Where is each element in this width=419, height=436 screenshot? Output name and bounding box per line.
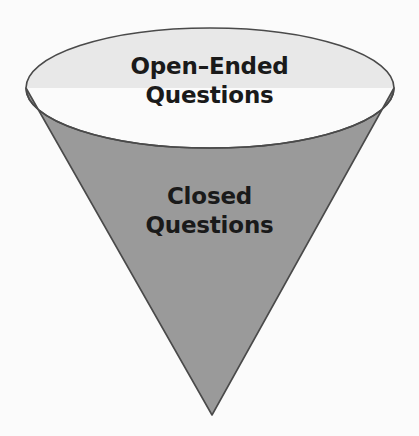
open-ended-label-line2: Questions bbox=[0, 81, 419, 110]
closed-label: Closed Questions bbox=[0, 182, 419, 240]
open-ended-label-line1: Open–Ended bbox=[0, 52, 419, 81]
open-ended-label: Open–Ended Questions bbox=[0, 52, 419, 110]
closed-label-line2: Questions bbox=[0, 211, 419, 240]
cone-body-shape bbox=[26, 88, 394, 415]
closed-label-line1: Closed bbox=[0, 182, 419, 211]
funnel-diagram: Open–Ended Questions Closed Questions bbox=[0, 0, 419, 436]
